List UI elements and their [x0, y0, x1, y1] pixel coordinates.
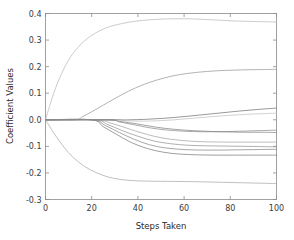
x-tick-label: 0	[43, 204, 48, 213]
x-tick-label: 40	[133, 204, 143, 213]
y-tick-label: -0.1	[26, 142, 42, 151]
y-tick-label: -0.3	[26, 196, 42, 205]
y-axis-title: Coefficient Values	[5, 67, 15, 144]
x-tick-label: 100	[269, 204, 284, 213]
x-tick-label: 60	[179, 204, 189, 213]
y-tick-label: 0.4	[29, 10, 42, 19]
x-axis-title: Steps Taken	[136, 221, 187, 231]
figure-container: -0.3-0.2-0.10.00.10.20.30.4 020406080100…	[0, 0, 294, 240]
y-tick-label: 0.2	[29, 63, 42, 72]
y-tick-label: 0.1	[29, 89, 42, 98]
y-tick-label: 0.0	[29, 116, 42, 125]
y-tick-label: 0.3	[29, 36, 42, 45]
coefficient-path-chart: -0.3-0.2-0.10.00.10.20.30.4 020406080100…	[0, 0, 294, 240]
x-tick-label: 80	[225, 204, 235, 213]
y-tick-label: -0.2	[26, 169, 42, 178]
x-tick-label: 20	[87, 204, 97, 213]
